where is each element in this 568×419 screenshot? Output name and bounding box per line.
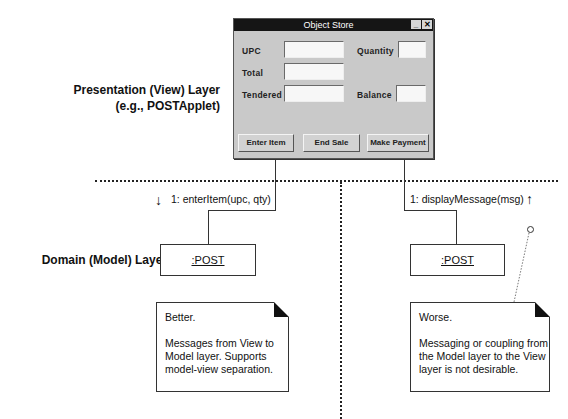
note-fold-icon	[274, 302, 289, 317]
worse-note-title: Worse.	[419, 311, 541, 324]
better-note: Better. Messages from View to Model laye…	[156, 302, 289, 392]
better-note-title: Better.	[165, 311, 280, 324]
note-fold-icon	[535, 302, 550, 317]
worse-note-body: Messaging or coupling from the Model lay…	[419, 337, 549, 376]
worse-note: Worse. Messaging or coupling from the Mo…	[410, 302, 550, 392]
better-note-body: Messages from View to Model layer. Suppo…	[165, 337, 283, 376]
